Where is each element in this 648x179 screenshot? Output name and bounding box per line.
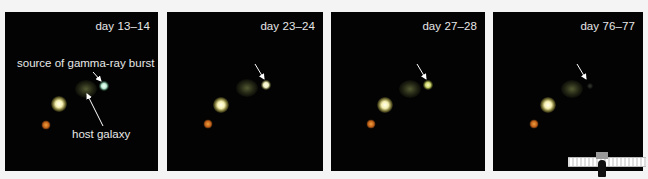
- watermark-logo-icon: [596, 152, 608, 159]
- watermark-figure-icon: [598, 160, 606, 177]
- panel-day-76-77: day 76–77: [493, 12, 643, 171]
- arrow-icon: [5, 12, 158, 171]
- arrow-icon: [167, 12, 323, 171]
- panel-day-13-14: day 13–14 source of gamma-ray burst host…: [5, 12, 158, 171]
- panel-day-27-28: day 27–28: [331, 12, 485, 171]
- panel-day-23-24: day 23–24: [167, 12, 323, 171]
- arrow-icon: [493, 12, 643, 171]
- arrow-icon: [331, 12, 485, 171]
